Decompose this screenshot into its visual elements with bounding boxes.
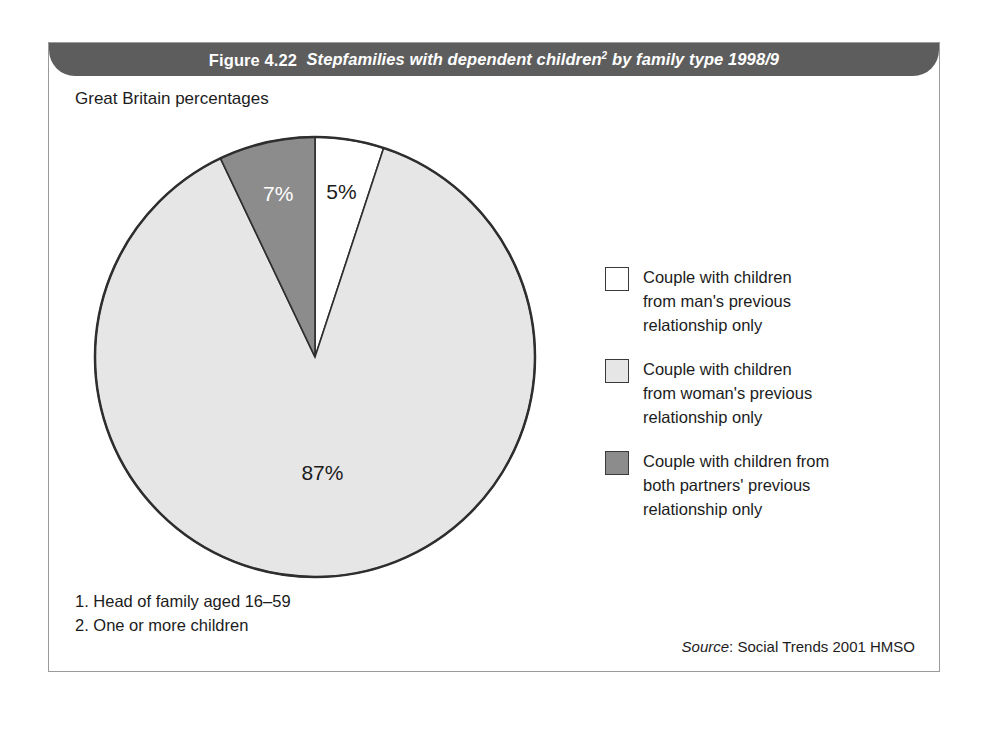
- source-text: : Social Trends 2001 HMSO: [729, 638, 915, 655]
- pie-slice[interactable]: [220, 137, 315, 357]
- legend-item[interactable]: Couple with children from woman's previo…: [605, 357, 935, 429]
- figure-description-main: Stepfamilies with dependent children: [306, 50, 601, 68]
- legend-label-woman: Couple with children from woman's previo…: [643, 357, 812, 429]
- footnote-1: 1. Head of family aged 16–59: [75, 589, 291, 613]
- pie-outline: [95, 137, 535, 577]
- legend-label-man: Couple with children from man's previous…: [643, 265, 792, 337]
- legend-swatch-woman: [605, 359, 629, 383]
- pie-slices: [95, 137, 535, 577]
- figure-frame: Figure 4.22 Stepfamilies with dependent …: [48, 42, 940, 672]
- figure-description-tail: by family type 1998/9: [607, 50, 779, 68]
- legend-swatch-man: [605, 267, 629, 291]
- figure-description: Stepfamilies with dependent children2 by…: [306, 50, 779, 68]
- pie-slice[interactable]: [95, 148, 535, 577]
- footnote-2: 2. One or more children: [75, 613, 291, 637]
- pie-slice-labels: 5%87%7%: [263, 180, 357, 484]
- pie-slice[interactable]: [315, 137, 384, 357]
- pie-chart: 5%87%7%: [85, 125, 545, 591]
- pie-slice-label: 7%: [263, 182, 293, 205]
- legend-label-both: Couple with children from both partners'…: [643, 449, 829, 521]
- figure-title-bar: Figure 4.22 Stepfamilies with dependent …: [49, 43, 939, 76]
- legend-item[interactable]: Couple with children from both partners'…: [605, 449, 935, 521]
- pie-slice-label: 5%: [326, 180, 356, 203]
- footnotes: 1. Head of family aged 16–59 2. One or m…: [75, 589, 291, 637]
- legend-item[interactable]: Couple with children from man's previous…: [605, 265, 935, 337]
- figure-title: Figure 4.22 Stepfamilies with dependent …: [209, 50, 779, 70]
- source-word: Source: [682, 638, 730, 655]
- chart-legend: Couple with children from man's previous…: [605, 265, 935, 541]
- figure-number: Figure 4.22: [209, 50, 297, 68]
- chart-subtitle: Great Britain percentages: [75, 89, 269, 109]
- legend-swatch-both: [605, 451, 629, 475]
- source-line: Source: Social Trends 2001 HMSO: [682, 638, 915, 655]
- pie-slice-label: 87%: [301, 461, 343, 484]
